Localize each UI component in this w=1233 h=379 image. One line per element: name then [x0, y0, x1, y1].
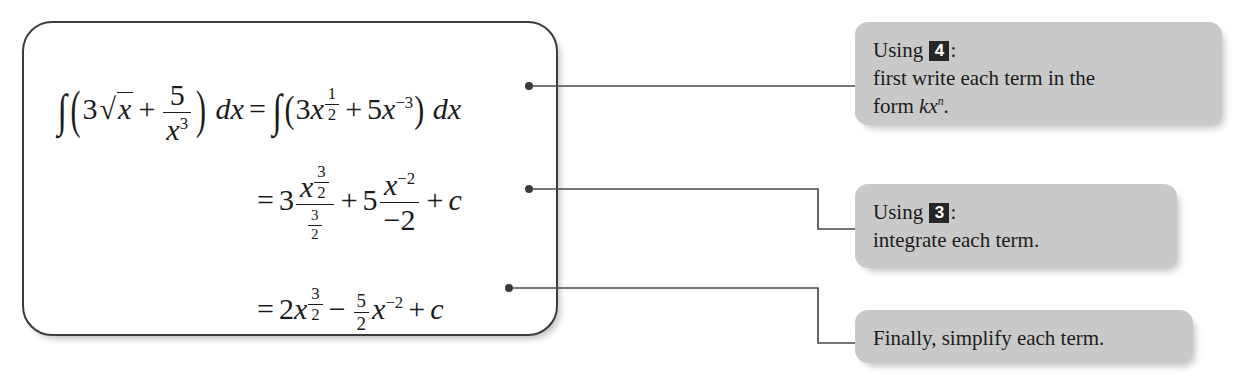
equation-line-3: =2x32−52x−2+c [252, 285, 444, 334]
worked-example-box: ∫(3√x+5x3) dx=∫(3x12+5x−3) dx =3x3232+5x… [22, 21, 558, 336]
note-3-line-1: Finally, simplify each term. [873, 324, 1175, 352]
fraction-x-pow-minus2-over-minus2: x−2−2 [380, 170, 420, 235]
plus-sign-line2: + [336, 183, 363, 216]
fraction-x-pow-3-2-over-3-2: x3232 [296, 163, 334, 243]
differential-dx-2: dx [433, 92, 461, 125]
coefficient-5-line2: 5 [363, 183, 378, 216]
plus-sign-line2-b: + [421, 183, 448, 216]
open-paren: ( [69, 83, 83, 136]
plus-sign-line3: + [403, 292, 430, 325]
note-1-line-2: first write each term in the [873, 64, 1204, 92]
note-1-line-3: form kxn. [873, 92, 1204, 120]
fraction-numerator: 5 [163, 79, 191, 112]
callout-note-2: Using 3: integrate each term. [855, 184, 1177, 268]
note-1-using-label: Using [873, 38, 923, 62]
connector-3-path [513, 288, 856, 343]
rule-badge-4: 4 [929, 41, 949, 61]
integral-sign-2: ∫ [272, 88, 281, 134]
plus-sign-2: + [340, 92, 367, 125]
equals-sign: = [244, 92, 271, 125]
rhs-variable-x-1: x [310, 92, 323, 125]
connector-1 [525, 82, 856, 90]
note-1-line-1: Using 4: [873, 36, 1204, 64]
note-1-form-label: form [873, 94, 914, 118]
exponent-minus-3: −3 [395, 93, 413, 112]
stack-numerator: x32 [296, 163, 334, 204]
note-1-period: . [944, 94, 949, 118]
exponent-three-halves: 32 [307, 293, 323, 312]
exponent-one-half: 12 [324, 93, 340, 112]
open-paren-2: ( [283, 90, 295, 128]
equals-sign-line3: = [252, 292, 279, 325]
note-2-colon: : [950, 200, 956, 224]
fraction-five-halves: 52 [354, 291, 370, 334]
exponent-minus-2-line3: −2 [385, 293, 403, 312]
coefficient-2-line3: 2 [279, 292, 294, 325]
plus-sign: + [133, 92, 160, 125]
rhs-variable-x-2: x [382, 92, 395, 125]
differential-dx: dx [216, 92, 244, 125]
rhs-coefficient-5: 5 [367, 92, 382, 125]
close-paren-2: ) [413, 90, 425, 128]
figure-canvas: ∫(3√x+5x3) dx=∫(3x12+5x−3) dx =3x3232+5x… [0, 0, 1233, 379]
callout-note-3: Finally, simplify each term. [855, 310, 1193, 363]
constant-c-line2: c [448, 183, 461, 216]
connector-2 [525, 185, 856, 229]
note-2-using-label: Using [873, 200, 923, 224]
fraction-denominator: x3 [163, 112, 191, 146]
equation-line-1: ∫(3√x+5x3) dx=∫(3x12+5x−3) dx [56, 79, 461, 146]
connector-2-path [533, 189, 856, 229]
coefficient-3-line2: 3 [279, 183, 294, 216]
integral-sign: ∫ [58, 88, 67, 134]
equation-line-2: =3x3232+5x−2−2+c [252, 163, 462, 243]
callout-note-1: Using 4: first write each term in the fo… [855, 22, 1222, 125]
stack-denominator: 32 [296, 204, 334, 243]
note-1-colon: : [950, 38, 956, 62]
radicand: x [117, 92, 133, 124]
equals-sign-line2: = [252, 183, 279, 216]
stack-numerator-2: x−2 [380, 170, 420, 202]
minus-sign-line3: − [324, 292, 351, 325]
variable-x-line3-b: x [372, 292, 385, 325]
constant-c-line3: c [430, 292, 443, 325]
close-paren: ) [194, 83, 208, 136]
note-2-line-1: Using 3: [873, 198, 1159, 226]
rule-badge-3: 3 [929, 203, 949, 223]
radical-sign: √ [100, 92, 116, 125]
fraction-5-over-x-cubed: 5x3 [163, 79, 191, 146]
coefficient-3: 3 [83, 92, 98, 125]
note-2-line-2: integrate each term. [873, 226, 1159, 254]
variable-x-line3: x [294, 292, 307, 325]
note-1-kx: kx [919, 94, 938, 118]
square-root: √x [98, 92, 134, 124]
stack-denominator-2: −2 [380, 202, 420, 235]
rhs-coefficient-3: 3 [295, 92, 310, 125]
